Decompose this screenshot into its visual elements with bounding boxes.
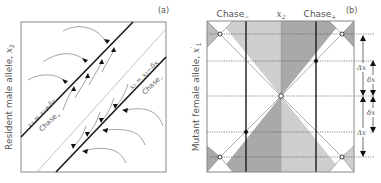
corner-point-tr	[340, 32, 344, 36]
center-equilibrium-point	[279, 94, 284, 99]
arrow-down-icon	[370, 90, 376, 96]
delta-small-lower-label: δx	[367, 109, 375, 117]
arrow-up-icon	[360, 96, 366, 102]
corner-point-bl	[218, 155, 222, 159]
arrow-down-icon	[360, 151, 366, 157]
chase-minus-point	[244, 130, 248, 134]
delta-big-lower-label: Δx	[356, 129, 366, 137]
delta-small-upper-label: δx	[367, 76, 375, 84]
delta-big-upper-label: Δx	[356, 64, 366, 72]
corner-point-br	[340, 155, 344, 159]
arrow-down-icon	[360, 90, 366, 96]
arrow-up-icon	[370, 96, 376, 102]
figure: (a) Resident male allele, x2	[0, 0, 381, 183]
col-x2-label: x2	[277, 9, 286, 20]
chase-plus-point	[314, 59, 318, 63]
panel-a: (a) Resident male allele, x2	[4, 6, 169, 172]
panel-b: (b) Chase− x2 Chase+ Mutant female allel…	[189, 6, 381, 172]
arrow-up-icon	[360, 35, 366, 41]
panel-b-ylabel: Mutant female allele, x′1	[189, 43, 202, 152]
panel-a-frame	[21, 22, 166, 172]
panel-a-tag: (a)	[158, 6, 169, 15]
panel-a-ylabel: Resident male allele, x2	[4, 44, 15, 150]
corner-point-tl	[218, 32, 222, 36]
col-chase-minus-label: Chase−	[217, 9, 250, 20]
panel-b-tag: (b)	[346, 6, 357, 15]
col-chase-plus-label: Chase+	[304, 9, 337, 20]
